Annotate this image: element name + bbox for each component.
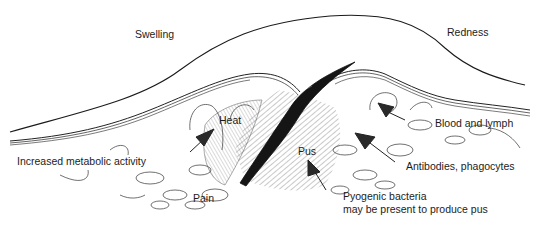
label-metabolic-activity: Increased metabolic activity [17, 155, 146, 168]
label-pus: Pus [298, 145, 316, 158]
label-pyogenic-bacteria: Pyogenic bacteria [343, 190, 426, 203]
label-blood-lymph: Blood and lymph [435, 117, 513, 130]
label-produce-pus: may be present to produce pus [343, 203, 488, 216]
label-pain: Pain [193, 192, 214, 205]
arrow-antibodies [355, 133, 395, 162]
label-swelling: Swelling [135, 28, 174, 41]
label-heat: Heat [219, 114, 241, 127]
label-redness: Redness [447, 26, 488, 39]
label-antibodies-phagocytes: Antibodies, phagocytes [406, 160, 515, 173]
